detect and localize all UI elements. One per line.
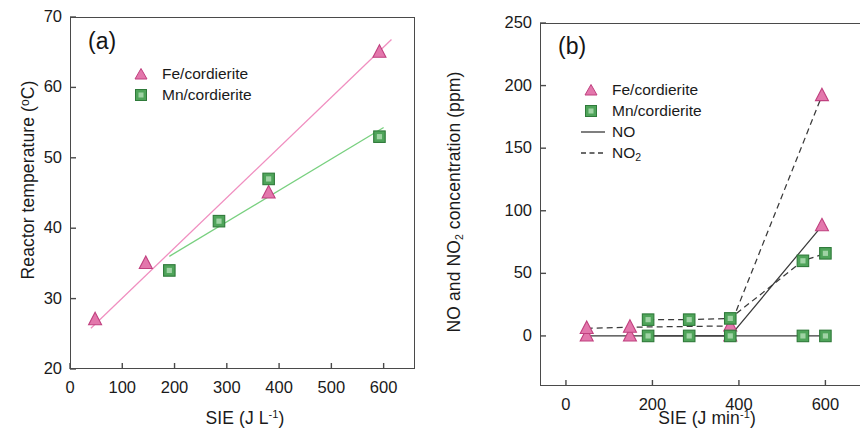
y-tick-label: 40 [8, 218, 62, 237]
data-point-triangle [815, 88, 828, 100]
legend-label: Fe/cordierite [162, 65, 248, 83]
x-tick-label: 100 [92, 378, 152, 397]
legend-item-no: NO [580, 122, 702, 141]
data-point-square-inner [823, 251, 828, 256]
data-point-square-inner [216, 219, 221, 224]
panel-b-plot-canvas [432, 0, 849, 442]
triangle-marker-icon [580, 80, 606, 99]
data-point-square-inner [646, 317, 651, 322]
x-tick-label: 300 [197, 378, 257, 397]
x-tick-label: 600 [354, 378, 414, 397]
data-point-triangle [262, 186, 275, 198]
y-tick-label: 200 [478, 76, 532, 95]
legend-label: NO [612, 123, 635, 141]
legend-item-mn-cordierite: Mn/cordierite [580, 101, 702, 120]
panel-a-legend: Fe/cordierite Mn/cordierite [130, 64, 252, 106]
y-tick-label: 250 [478, 13, 532, 32]
x-tick-label: 400 [249, 378, 309, 397]
data-point-square-inner [646, 333, 651, 338]
y-tick-label: 60 [8, 77, 62, 96]
legend-label: Mn/cordierite [162, 86, 252, 104]
y-tick-label: 50 [8, 148, 62, 167]
panel-a-tag: (a) [88, 28, 116, 55]
data-point-square-inner [687, 333, 692, 338]
y-tick-label: 20 [8, 359, 62, 378]
square-marker-icon [130, 85, 156, 104]
data-point-square-inner [728, 316, 733, 321]
legend-label: Fe/cordierite [612, 81, 698, 99]
panel-b-y-axis-label: NO and NO2 concentration (ppm) [444, 12, 465, 392]
y-tick-label: 0 [478, 326, 532, 345]
y-tick-label: 50 [478, 263, 532, 282]
y-tick-label: 30 [8, 289, 62, 308]
x-tick-label: 500 [301, 378, 361, 397]
data-point-triangle [89, 312, 102, 324]
data-point-square-inner [728, 333, 733, 338]
legend-item-no2: NO2 [580, 143, 702, 162]
data-point-square-inner [687, 317, 692, 322]
panel-b: (b) Fe/cordierite Mn/cordierite [432, 0, 849, 442]
data-point-square-inner [377, 134, 382, 139]
x-tick-label: 600 [795, 395, 855, 414]
data-point-square-inner [167, 268, 172, 273]
legend-item-fe-cordierite: Fe/cordierite [580, 80, 702, 99]
data-point-square-inner [800, 258, 805, 263]
data-point-triangle [815, 218, 828, 230]
data-point-triangle [623, 320, 636, 332]
data-point-square-inner [800, 333, 805, 338]
dashed-line-icon [580, 143, 606, 162]
legend-label: Mn/cordierite [612, 102, 702, 120]
fit-line [169, 128, 383, 257]
square-marker-icon [580, 101, 606, 120]
x-tick-label: 0 [536, 395, 596, 414]
data-point-triangle [139, 256, 152, 268]
x-tick-label: 0 [40, 378, 100, 397]
solid-line-icon [580, 122, 606, 141]
legend-item-fe-cordierite: Fe/cordierite [130, 64, 252, 83]
panel-b-legend: Fe/cordierite Mn/cordierite NO [580, 80, 702, 164]
legend-label: NO2 [612, 144, 641, 162]
y-tick-label: 70 [8, 7, 62, 26]
triangle-marker-icon [130, 64, 156, 83]
series-line [587, 226, 822, 336]
x-tick-label: 200 [145, 378, 205, 397]
data-point-square-inner [266, 176, 271, 181]
x-tick-label: 400 [709, 395, 769, 414]
panel-a-x-axis-label: SIE (J L-1) [120, 408, 370, 429]
data-point-triangle [580, 321, 593, 333]
legend-item-mn-cordierite: Mn/cordierite [130, 85, 252, 104]
panel-b-tag: (b) [558, 33, 586, 60]
panel-a: (a) Fe/cordierite Mn/cordierite [0, 0, 432, 442]
y-tick-label: 100 [478, 201, 532, 220]
x-tick-label: 200 [622, 395, 682, 414]
data-point-square-inner [823, 333, 828, 338]
y-tick-label: 150 [478, 138, 532, 157]
